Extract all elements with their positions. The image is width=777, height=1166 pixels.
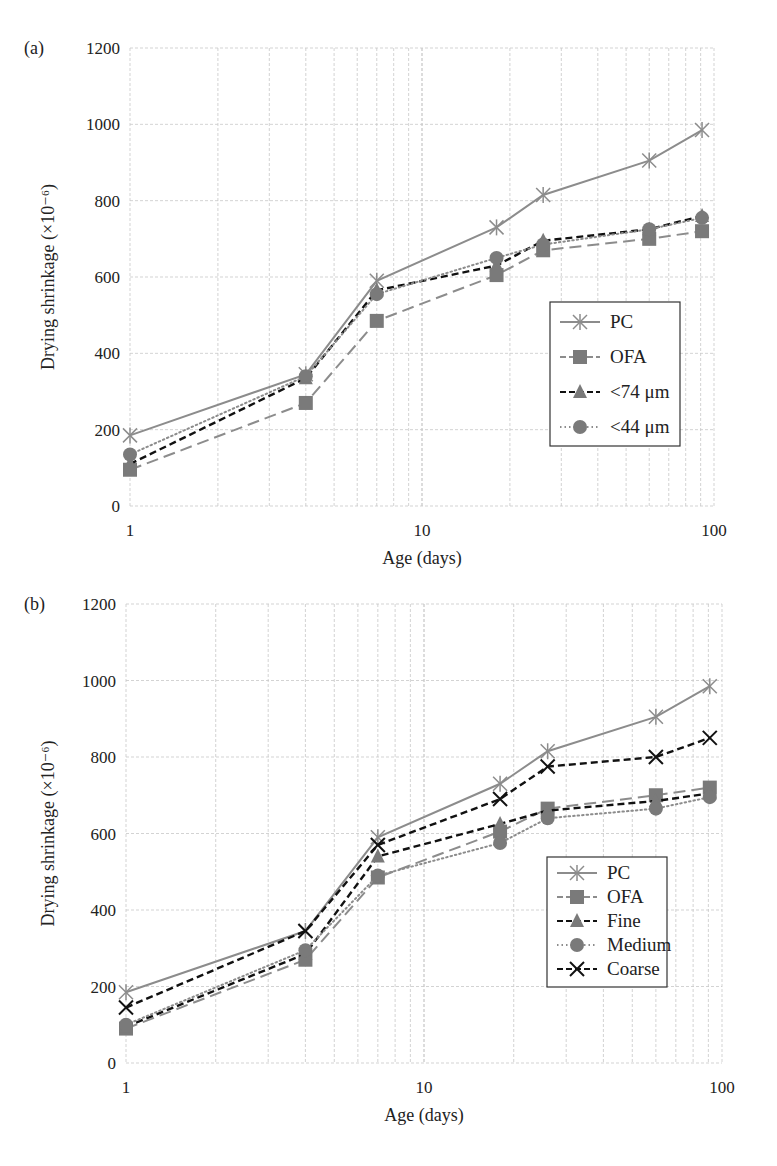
y-tick-label: 400 [91, 901, 117, 920]
circle-marker-icon [119, 1018, 133, 1032]
asterisk-marker-icon [541, 743, 555, 759]
circle-marker-icon [371, 869, 385, 883]
y-tick-label: 0 [112, 497, 121, 516]
y-tick-label: 1200 [82, 595, 116, 614]
circle-legend-icon [573, 420, 587, 434]
legend-label: OFA [607, 886, 644, 907]
x-tick-label: 10 [416, 1078, 433, 1097]
x-axis-ticks: 110100 [122, 1078, 735, 1097]
y-tick-label: 200 [91, 978, 117, 997]
x-tick-label: 10 [414, 521, 431, 540]
y-tick-label: 800 [91, 748, 117, 767]
y-tick-label: 400 [95, 344, 121, 363]
circle-marker-icon [695, 211, 709, 225]
circle-marker-icon [649, 802, 663, 816]
chart-panel-a: 020040060080010001200110100Age (days)Dry… [0, 0, 777, 580]
legend-label: OFA [610, 346, 647, 367]
legend: PCOFA<74 μm<44 μm [550, 302, 680, 446]
square-legend-icon [570, 890, 584, 904]
square-marker-icon [299, 396, 313, 410]
y-tick-label: 800 [95, 192, 121, 211]
x-tick-label: 100 [709, 1078, 735, 1097]
circle-marker-icon [536, 238, 550, 252]
circle-legend-icon [570, 938, 584, 952]
legend: PCOFAFineMediumCoarse [547, 857, 672, 987]
legend-label: Medium [607, 934, 672, 955]
x-tick-label: 100 [701, 521, 727, 540]
legend-label: <44 μm [610, 416, 670, 437]
y-tick-label: 0 [108, 1054, 117, 1073]
y-tick-label: 200 [95, 421, 121, 440]
x-axis-label: Age (days) [384, 1105, 463, 1126]
y-axis-label: Drying shrinkage (×10⁻⁶) [38, 741, 59, 927]
y-tick-label: 1000 [82, 672, 116, 691]
asterisk-marker-icon [703, 678, 717, 694]
y-tick-label: 1000 [86, 115, 120, 134]
x-marker-icon [493, 792, 507, 806]
x-axis-ticks: 110100 [126, 521, 727, 540]
circle-marker-icon [123, 447, 137, 461]
y-tick-label: 1200 [86, 39, 120, 58]
y-axis-label: Drying shrinkage (×10⁻⁶) [38, 184, 59, 370]
legend-label: <74 μm [610, 381, 670, 402]
square-marker-icon [370, 314, 384, 328]
x-tick-label: 1 [122, 1078, 131, 1097]
line-chart-b: 020040060080010001200110100Age (days)Dry… [0, 556, 777, 1166]
y-axis-ticks: 020040060080010001200 [86, 39, 120, 516]
y-axis-ticks: 020040060080010001200 [82, 595, 116, 1073]
asterisk-marker-icon [123, 427, 137, 443]
y-tick-label: 600 [95, 268, 121, 287]
panel-label: (b) [24, 594, 45, 615]
square-marker-icon [695, 224, 709, 238]
asterisk-marker-icon [695, 122, 709, 138]
legend-label: Fine [607, 910, 641, 931]
circle-marker-icon [299, 369, 313, 383]
y-tick-label: 600 [91, 825, 117, 844]
asterisk-marker-icon [536, 187, 550, 203]
circle-marker-icon [642, 222, 656, 236]
circle-marker-icon [490, 251, 504, 265]
circle-marker-icon [703, 790, 717, 804]
circle-marker-icon [298, 943, 312, 957]
legend-label: PC [610, 311, 633, 332]
line-chart-a: 020040060080010001200110100Age (days)Dry… [0, 0, 777, 580]
asterisk-marker-icon [493, 776, 507, 792]
x-tick-label: 1 [126, 521, 135, 540]
asterisk-marker-icon [649, 709, 663, 725]
chart-panel-b: 020040060080010001200110100Age (days)Dry… [0, 556, 777, 1166]
asterisk-marker-icon [119, 984, 133, 1000]
legend-label: PC [607, 862, 630, 883]
x-marker-icon [703, 731, 717, 745]
asterisk-marker-icon [490, 219, 504, 235]
asterisk-marker-icon [642, 153, 656, 169]
circle-marker-icon [541, 811, 555, 825]
panel-label: (a) [24, 38, 44, 59]
x-marker-icon [119, 1001, 133, 1015]
legend-label: Coarse [607, 958, 660, 979]
square-legend-icon [573, 350, 587, 364]
circle-marker-icon [493, 836, 507, 850]
circle-marker-icon [370, 287, 384, 301]
